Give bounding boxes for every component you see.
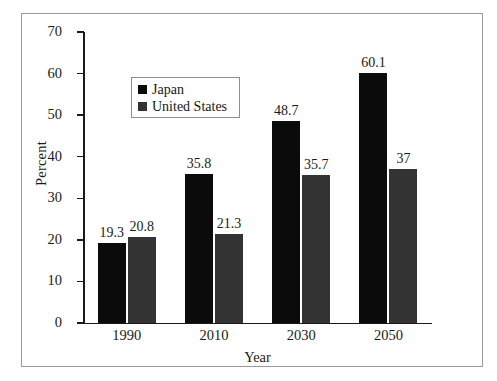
legend-item-united-states: United States: [138, 98, 234, 115]
y-tick-label: 10: [16, 273, 62, 288]
bar-japan-2030: [272, 121, 300, 323]
bar-japan-1990: [98, 243, 126, 323]
y-tick-label: 70: [16, 24, 62, 39]
y-tick-label: 60: [16, 66, 62, 81]
chart-page: 010203040506070 Percent Year 19.320.835.…: [0, 0, 497, 381]
bar-japan-2010: [185, 174, 213, 323]
bar-united-states-1990: [128, 237, 156, 323]
bar-united-states-2050: [389, 169, 417, 323]
bar-value-label: 20.8: [117, 219, 167, 235]
y-tick-label: 20: [16, 232, 62, 247]
x-tick-label-2050: 2050: [358, 327, 418, 344]
bar-value-label: 48.7: [261, 103, 311, 119]
bar-value-label: 60.1: [348, 55, 398, 71]
y-axis-title: Percent: [33, 119, 50, 209]
x-tick-label-2010: 2010: [184, 327, 244, 344]
bar-value-label: 21.3: [204, 216, 254, 232]
y-tick-mark: [77, 198, 84, 199]
y-tick-mark: [77, 73, 84, 74]
bar-value-label: 37: [378, 151, 428, 167]
y-tick-mark: [77, 281, 84, 282]
legend-swatch-japan: [138, 85, 147, 94]
y-tick-mark: [77, 31, 84, 32]
bar-japan-2050: [359, 73, 387, 323]
legend-label-united-states: United States: [152, 98, 227, 115]
legend-swatch-united-states: [138, 102, 147, 111]
y-tick-mark: [77, 322, 84, 323]
bar-value-label: 35.8: [174, 156, 224, 172]
bar-united-states-2030: [302, 175, 330, 323]
y-tick-mark: [77, 156, 84, 157]
bar-value-label: 35.7: [291, 157, 341, 173]
legend-label-japan: Japan: [152, 81, 184, 98]
plot-area: 010203040506070 Percent Year 19.320.835.…: [0, 0, 497, 381]
x-axis-title: Year: [83, 349, 432, 366]
legend: Japan United States: [131, 77, 240, 118]
legend-item-japan: Japan: [138, 81, 234, 98]
y-tick-mark: [77, 239, 84, 240]
y-tick-label: 0: [16, 315, 62, 330]
x-tick-label-1990: 1990: [97, 327, 157, 344]
y-tick-mark: [77, 114, 84, 115]
bar-united-states-2010: [215, 234, 243, 323]
x-tick-label-2030: 2030: [271, 327, 331, 344]
